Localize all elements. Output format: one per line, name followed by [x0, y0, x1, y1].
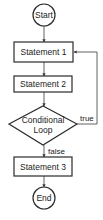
flowchart: Start Statement 1 Statement 2 Conditiona… [0, 0, 103, 220]
node-statement-1-label: Statement 1 [21, 47, 67, 57]
node-start: Start [33, 4, 55, 26]
node-statement-3: Statement 3 [14, 157, 72, 176]
node-conditional-loop: Conditional Loop [9, 106, 77, 145]
node-statement-2: Statement 2 [14, 76, 72, 92]
node-conditional-label-line1: Conditional [22, 115, 65, 125]
node-end-label: End [36, 193, 51, 203]
edge-label-false: false [48, 147, 65, 156]
edge-label-true: true [80, 114, 94, 123]
node-conditional-label-line2: Loop [34, 125, 53, 135]
node-statement-3-label: Statement 3 [20, 162, 66, 172]
node-start-label: Start [35, 10, 54, 20]
node-end: End [33, 187, 55, 209]
node-statement-1: Statement 1 [14, 42, 73, 62]
node-statement-2-label: Statement 2 [20, 79, 66, 89]
